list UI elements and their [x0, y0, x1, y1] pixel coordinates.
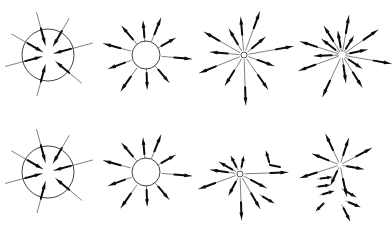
panel-r2c2-arrow-2: [122, 143, 137, 161]
panel-r1c4-canvas: [294, 0, 392, 117]
panel-r2c3-arrow-8: [239, 179, 243, 220]
panel-r2c4-arrow-0-head: [300, 174, 308, 178]
panel-r2c4-fragment-2: [320, 191, 334, 195]
panel-r2c1-canvas: [0, 117, 98, 234]
panel-r2c3-arrow-3: [231, 156, 238, 169]
panel-r2c1-arrow-4-head: [54, 167, 62, 171]
panel-r1c2-arrow-1: [103, 44, 130, 51]
panel-r2c4: [294, 117, 392, 234]
panel-r2c4-fragment-6: [342, 205, 350, 221]
panel-r2c4-arrow-1: [312, 154, 337, 164]
panel-r2c4-arrow-3-head: [345, 138, 349, 146]
panel-r1c4-arrow-6-head: [346, 16, 350, 24]
panel-r1c3-arrow-1: [210, 51, 239, 55]
panel-r1c2: [98, 0, 196, 117]
panel-grid: [0, 0, 392, 234]
panel-r2c3-arrow-2: [219, 162, 235, 172]
panel-r1c3-arrow-6: [248, 37, 266, 52]
panel-r2c4-arrow-0: [300, 166, 337, 178]
panel-r2c2-arrow-3: [142, 138, 146, 158]
panel-r2c2: [98, 117, 196, 234]
panel-r1c2-arrow-2: [122, 26, 137, 44]
panel-r1c2-arrow-1-head: [103, 44, 111, 48]
panel-r2c4-fragment-1-head: [325, 184, 330, 188]
panel-r1c4-arrow-14-head: [323, 89, 328, 97]
panel-r1c4: [294, 0, 392, 117]
panel-r2c4-fragment-5: [346, 201, 360, 207]
panel-r1c4-arrow-1: [314, 54, 338, 58]
panel-r2c2-circle-outline: [132, 158, 160, 186]
panel-r1c2-arrow-6-head: [184, 56, 192, 60]
panel-r1c1-circle-outline: [22, 29, 74, 81]
panel-r1c3-arrow-2: [204, 32, 240, 53]
panel-r2c1: [0, 117, 98, 234]
panel-r2c4-fragment-0: [318, 176, 332, 180]
panel-r1c4-arrow-0-head: [299, 66, 307, 70]
panel-r1c3-arrow-0-head: [199, 68, 207, 73]
panel-r1c4-arrow-7: [344, 36, 354, 51]
panel-r1c4-arrow-11: [345, 57, 362, 68]
panel-r1c1-arrow-6-head: [42, 65, 46, 73]
panel-r1c4-arrow-1-head: [314, 54, 322, 58]
panel-r2c2-arrow-0-head: [108, 181, 116, 185]
panel-r2c3-arrow-9: [229, 178, 238, 195]
panel-r2c4-fragment-4: [342, 189, 356, 197]
panel-r2c2-arrow-0: [108, 177, 131, 185]
panel-r2c2-arrow-8-head: [145, 199, 149, 206]
panel-r1c1-arrow-0-head: [34, 57, 42, 61]
panel-r1c4-arrow-2-head: [300, 41, 308, 45]
panel-r2c4-arrow-1-head: [312, 154, 320, 159]
panel-r2c1-arrow-0-head: [34, 174, 42, 178]
panel-r1c2-arrow-5: [158, 38, 175, 48]
panel-r2c2-arrow-6-head: [184, 173, 192, 177]
panel-r1c3-arrow-4-head: [239, 17, 243, 25]
panel-r2c4-arrow-7-head: [331, 178, 335, 185]
panel-r2c3-arrow-4: [241, 156, 245, 169]
panel-r2c2-arrow-5: [158, 155, 175, 165]
panel-r2c4-fragment-5-head: [354, 203, 360, 207]
panel-r2c4-fragment-2-head: [329, 191, 334, 195]
panel-r1c3-arrow-8-head: [266, 62, 274, 66]
panel-r2c4-fragment-3: [316, 203, 324, 211]
panel-r1c2-arrow-6: [162, 56, 192, 60]
panel-r1c3-arrow-5-head: [255, 12, 259, 20]
panel-r2c2-arrow-4: [152, 135, 161, 158]
panel-r1c2-arrow-4: [152, 18, 161, 41]
panel-r1c2-arrow-3: [142, 21, 146, 41]
panel-r1c3-canvas: [196, 0, 294, 117]
panel-r2c3-arrow-8-head: [239, 212, 243, 220]
panel-r1c1-arrow-5: [56, 61, 82, 83]
panel-r1c4-arrow-13: [343, 59, 347, 83]
panel-r2c4-arrow-7: [331, 168, 339, 185]
panel-r2c2-arrow-3-head: [142, 138, 146, 145]
panel-r2c4-arrow-2-head: [326, 134, 331, 142]
panel-r2c2-arrow-8: [145, 186, 149, 206]
panel-r2c1-arrow-6-head: [42, 182, 46, 190]
panel-r1c4-arrow-9-head: [360, 49, 368, 53]
panel-r1c3: [196, 0, 294, 117]
panel-r1c2-canvas: [98, 0, 196, 117]
panel-r2c4-fragment-1: [316, 184, 330, 188]
panel-r2c3-arrow-4-head: [241, 156, 245, 161]
panel-r2c4-arrow-3: [341, 138, 349, 162]
panel-r2c3-hub-dot: [237, 171, 243, 177]
panel-r2c2-arrow-6: [162, 173, 192, 177]
panel-r2c3-arrow-0: [199, 176, 236, 189]
panel-r1c2-arrow-7: [156, 66, 169, 82]
panel-r1c3-arrow-11: [225, 59, 241, 85]
panel-r1c3-arrow-7-head: [286, 46, 294, 50]
panel-r1c3-arrow-8: [249, 57, 274, 66]
panel-r2c3: [196, 117, 294, 234]
panel-r2c3-canvas: [196, 117, 294, 234]
panel-r1c3-arrow-1-head: [210, 51, 218, 55]
panel-r2c3-fragment-1: [260, 195, 274, 203]
panel-r1c1-arrow-2-head: [42, 38, 46, 46]
panel-r1c2-arrow-4-head: [156, 18, 161, 26]
panel-r1c2-circle-outline: [132, 41, 160, 69]
panel-r1c1-canvas: [0, 0, 98, 117]
figure-root: Radial arrow evolution panels: [0, 0, 392, 234]
panel-r2c4-canvas: [294, 117, 392, 234]
panel-r2c2-arrow-1: [103, 161, 130, 168]
panel-r2c4-fragment-0-head: [327, 176, 332, 180]
panel-r2c4-arrow-5-head: [356, 166, 363, 170]
